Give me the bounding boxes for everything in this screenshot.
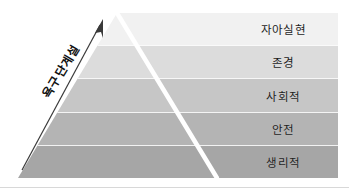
pyramid-band-stack: 자아실현 존경 사회적 안전 생리적 <box>117 13 338 178</box>
pyramid-level-esteem: 존경 <box>117 45 338 78</box>
pyramid-level-label: 생리적 <box>266 154 300 170</box>
wing-band-safety <box>18 112 117 145</box>
maslow-pyramid-figure: 자아실현 존경 사회적 안전 생리적 욕구단계설 <box>0 0 349 192</box>
pyramid-level-label: 존경 <box>272 54 295 70</box>
pyramid-level-label: 자아실현 <box>261 21 307 37</box>
pyramid-level-label: 사회적 <box>266 88 300 104</box>
bottom-divider <box>0 187 349 188</box>
pyramid-level-label: 안전 <box>272 121 295 137</box>
pyramid-level-safety: 안전 <box>117 112 338 145</box>
wing-band-physiological <box>18 145 117 178</box>
pyramid-level-self-actualization: 자아실현 <box>117 13 338 45</box>
pyramid-level-physiological: 생리적 <box>117 145 338 178</box>
pyramid-left-wing <box>18 13 117 178</box>
pyramid-level-social: 사회적 <box>117 78 338 111</box>
